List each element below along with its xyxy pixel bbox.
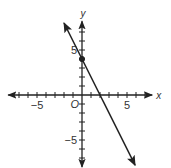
plotted-points: [79, 56, 84, 61]
x-tick-label: 5: [124, 99, 130, 111]
origin-label: O: [70, 98, 79, 110]
coordinate-plane: −555−5Oxy: [0, 0, 171, 168]
y-intercept-point: [79, 56, 84, 61]
y-axis-label: y: [80, 8, 87, 19]
y-tick-label: −5: [64, 134, 77, 146]
axes: [8, 21, 152, 167]
axis-labels: −555−5Oxy: [31, 8, 162, 146]
x-tick-label: −5: [31, 99, 44, 111]
x-axis-label: x: [155, 90, 162, 101]
